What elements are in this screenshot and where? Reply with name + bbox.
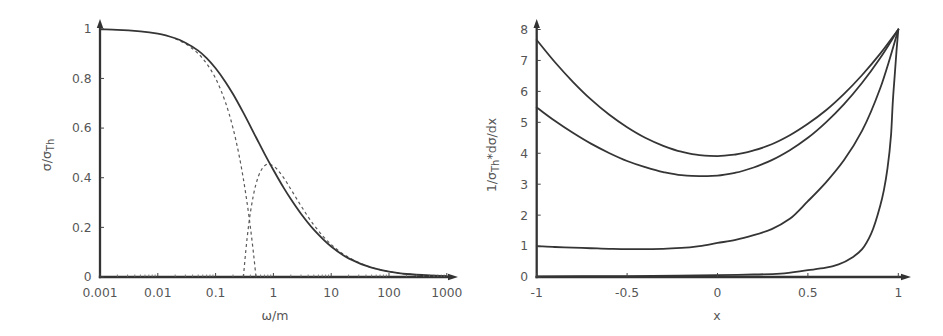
x-tick-label: 0.01	[144, 286, 171, 300]
series-line-curve-4	[537, 30, 899, 277]
x-tick-label: 0.001	[82, 286, 117, 300]
y-axis-title-subscript: Th	[490, 160, 501, 173]
series-line-curve-3	[537, 30, 899, 250]
axes-layer	[534, 19, 912, 280]
ticks-layer: 00.20.40.60.810.0010.010.11101001000	[72, 22, 463, 300]
figure: 00.20.40.60.810.0010.010.11101001000 ω/m…	[0, 0, 943, 336]
x-tick-label: 0.1	[206, 286, 226, 300]
x-tick-label: 10	[323, 286, 339, 300]
series-line-curve-1	[537, 30, 899, 157]
x-axis-arrowhead-icon	[901, 274, 911, 280]
x-tick-label: 100	[377, 286, 400, 300]
y-tick-label: 8	[520, 23, 528, 37]
x-tick-label: 1000	[431, 286, 462, 300]
y-tick-label: 4	[520, 147, 528, 161]
y-tick-label: 0.2	[72, 221, 92, 235]
y-tick-label: 3	[520, 178, 528, 192]
y-tick-label: 0.4	[72, 171, 92, 185]
chart-right: 012345678-1-0.500.51 x 1/σTh*dσ/dx	[484, 19, 911, 323]
x-axis-title: x	[713, 308, 720, 323]
y-tick-label: 1	[520, 239, 528, 253]
chart-left: 00.20.40.60.810.0010.010.11101001000 ω/m…	[39, 19, 463, 323]
x-tick-label: 1	[269, 286, 277, 300]
y-tick-label: 0	[84, 270, 92, 284]
x-axis-title: ω/m	[262, 308, 289, 323]
y-tick-label: 0.8	[72, 72, 92, 86]
x-tick-label: -1	[531, 286, 543, 300]
y-axis-title: σ/σTh	[39, 139, 56, 172]
y-axis-title-main: σ/σ	[39, 151, 54, 171]
x-axis-arrowhead-icon	[448, 274, 458, 280]
series-layer	[537, 30, 899, 277]
x-tick-label: 0	[714, 286, 722, 300]
y-tick-label: 0.6	[72, 121, 92, 135]
y-tick-label: 2	[520, 209, 528, 223]
series-line-dashed-low-energy	[175, 39, 256, 277]
series-line-solid	[100, 29, 447, 276]
y-axis-arrowhead-icon	[534, 19, 540, 28]
y-axis-title-main: 1/σ	[484, 172, 499, 192]
x-tick-label: 1	[894, 286, 902, 300]
ticks-layer: 012345678-1-0.500.51	[520, 23, 902, 300]
series-line-dashed-high-energy	[243, 164, 446, 277]
y-axis-arrowhead-icon	[97, 19, 103, 28]
x-tick-label: 0.5	[798, 286, 818, 300]
series-line-curve-2	[537, 30, 899, 177]
x-tick-label: -0.5	[615, 286, 639, 300]
axes-layer	[97, 19, 458, 280]
y-axis-title: 1/σTh*dσ/dx	[484, 118, 501, 192]
y-tick-label: 7	[520, 54, 528, 68]
y-tick-label: 0	[520, 270, 528, 284]
y-tick-label: 1	[84, 22, 92, 36]
y-tick-label: 6	[520, 85, 528, 99]
y-axis-title-subscript: Th	[45, 139, 56, 152]
y-axis-title-rest: *dσ/dx	[484, 118, 499, 160]
y-tick-label: 5	[520, 116, 528, 130]
series-layer	[100, 29, 447, 277]
